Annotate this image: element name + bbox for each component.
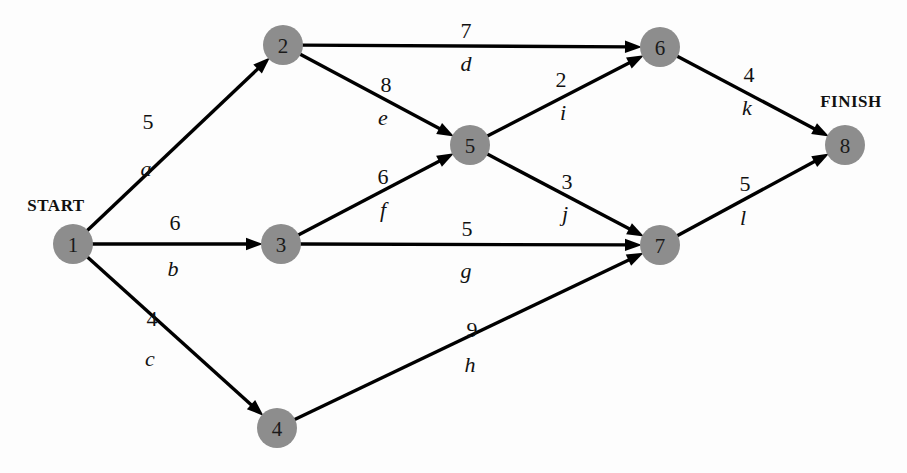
edge-name-h: h: [465, 352, 476, 377]
finish-label: FINISH: [820, 92, 882, 111]
edge-b: [92, 238, 263, 250]
edge-weight-k: 4: [744, 62, 755, 87]
node-8[interactable]: 8: [825, 125, 865, 165]
node-1[interactable]: 1: [53, 224, 93, 264]
node-4[interactable]: 4: [257, 408, 297, 448]
node-7[interactable]: 7: [640, 225, 680, 265]
edge-d: [302, 41, 642, 53]
edge-weight-i: 2: [556, 67, 567, 92]
node-5[interactable]: 5: [450, 125, 490, 165]
edge-weight-a: 5: [143, 109, 154, 134]
edge-name-g: g: [461, 258, 472, 283]
node-3[interactable]: 3: [261, 224, 301, 264]
edge-weight-j: 3: [562, 169, 573, 194]
edge-name-l: l: [740, 205, 746, 230]
node-label-2: 2: [278, 34, 289, 58]
edge-name-k: k: [742, 95, 753, 120]
node-6[interactable]: 6: [640, 27, 680, 67]
edge-name-j: j: [559, 201, 568, 226]
edge-weight-e: 8: [381, 72, 392, 97]
edge-name-f: f: [380, 197, 389, 222]
node-label-7: 7: [655, 234, 666, 258]
edges-layer: [87, 41, 829, 420]
node-label-6: 6: [655, 36, 666, 60]
node-label-8: 8: [840, 134, 851, 158]
network-graph: 12345678 5a6b4c7d8e6f5g9h2i3j4k5l STARTF…: [0, 0, 907, 473]
edge-labels-layer: 5a6b4c7d8e6f5g9h2i3j4k5l: [141, 18, 755, 377]
edge-a: [87, 57, 270, 231]
edge-name-c: c: [145, 346, 155, 371]
edge-weight-d: 7: [461, 18, 472, 43]
node-label-4: 4: [272, 417, 283, 441]
network-diagram-canvas: 12345678 5a6b4c7d8e6f5g9h2i3j4k5l STARTF…: [0, 0, 907, 473]
edge-weight-c: 4: [147, 306, 158, 331]
start-label: START: [27, 196, 84, 215]
node-label-5: 5: [465, 134, 476, 158]
edge-name-i: i: [560, 100, 566, 125]
edge-name-b: b: [168, 256, 179, 281]
edge-f: [298, 153, 454, 235]
edge-weight-f: 6: [378, 164, 389, 189]
edge-weight-g: 5: [462, 216, 473, 241]
edge-weight-l: 5: [740, 171, 751, 196]
edge-g: [300, 239, 642, 251]
edge-weight-b: 6: [170, 210, 181, 235]
edge-c: [87, 257, 264, 416]
edge-l: [677, 154, 829, 236]
edge-name-a: a: [141, 156, 152, 181]
edge-weight-h: 9: [467, 317, 478, 342]
edge-name-d: d: [461, 51, 473, 76]
node-label-1: 1: [68, 233, 79, 257]
node-2[interactable]: 2: [263, 25, 303, 65]
edge-name-e: e: [378, 105, 388, 130]
edge-e: [300, 54, 454, 137]
nodes-layer: 12345678: [53, 25, 865, 448]
node-label-3: 3: [276, 233, 287, 257]
